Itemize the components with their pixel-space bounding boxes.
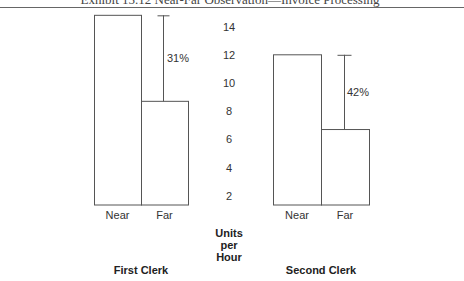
panel-title: First Clerk (114, 264, 169, 276)
y-tick-label: 8 (226, 105, 232, 117)
y-tick-label: 14 (223, 21, 235, 33)
y-tick-label: 10 (223, 77, 235, 89)
chart-root: Exhibit 15.12 Near-Far Observation—Invoi… (0, 0, 464, 281)
y-axis-tick-labels: 2468101214 (223, 21, 235, 202)
panel-second-clerk: 42% Near Far Second Clerk (274, 55, 370, 276)
panel-title: Second Clerk (286, 264, 357, 276)
percent-reduction-label: 42% (347, 86, 369, 98)
y-tick-label: 12 (223, 49, 235, 61)
y-axis-label-line-1: Units (215, 227, 243, 239)
y-tick-label: 6 (226, 133, 232, 145)
chart-title: Exhibit 15.12 Near-Far Observation—Invoi… (80, 0, 380, 7)
y-tick-label: 2 (226, 190, 232, 202)
category-label-far: Far (337, 209, 354, 221)
category-label-far: Far (156, 209, 173, 221)
near-far-chart: Exhibit 15.12 Near-Far Observation—Invoi… (0, 0, 464, 281)
y-tick-label: 4 (226, 162, 232, 174)
bar-far (142, 101, 189, 205)
bar-far (322, 130, 370, 205)
y-axis-label-line-2: per (220, 239, 238, 251)
bar-near (274, 55, 322, 205)
bar-near (95, 15, 142, 205)
panel-first-clerk: 31% Near Far First Clerk (95, 15, 190, 276)
y-axis-label-line-3: Hour (216, 251, 242, 263)
category-label-near: Near (285, 209, 309, 221)
category-label-near: Near (106, 209, 130, 221)
percent-reduction-label: 31% (167, 52, 189, 64)
